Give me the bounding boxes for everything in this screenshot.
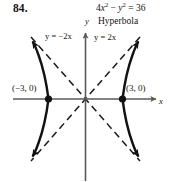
vertex-right-dot xyxy=(119,95,126,102)
asymptote-left-label: y = −2x xyxy=(45,32,72,41)
equation-right-side: = 36 xyxy=(126,3,146,13)
y-axis-label: y xyxy=(85,17,89,26)
vertex-left-label: (−3, 0) xyxy=(12,84,37,93)
equation-operator: − xyxy=(108,3,118,13)
vertex-right-label: (3, 0) xyxy=(126,84,146,93)
conic-type-label: Hyperbola xyxy=(98,17,138,27)
vertex-left-dot xyxy=(45,95,52,102)
hyperbola-figure: 84. 4x2 − y2 = 36 Hyperbola y x y = −2x … xyxy=(0,0,171,182)
x-axis-label: x xyxy=(159,97,163,106)
right-branch-lower xyxy=(123,99,139,157)
problem-number: 84. xyxy=(13,3,28,15)
coordinate-axes xyxy=(13,33,156,181)
asymptote-right-label: y = 2x xyxy=(94,33,116,42)
left-branch-lower xyxy=(33,99,49,157)
equation-label: 4x2 − y2 = 36 xyxy=(96,4,145,14)
